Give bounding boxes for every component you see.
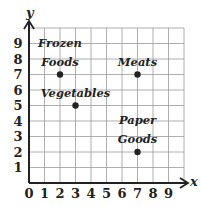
x-tick-label: 6: [117, 186, 126, 201]
x-tick-label: 1: [40, 186, 49, 201]
x-tick-label: 7: [133, 186, 142, 201]
x-tick-labels: 0123456789: [24, 186, 173, 201]
x-tick-label: 4: [86, 186, 95, 201]
point-marker-icon: [72, 102, 78, 108]
point-label: Vegetables: [41, 86, 111, 100]
point-marker-icon: [134, 71, 140, 77]
y-tick-label: 3: [13, 129, 22, 144]
y-tick-labels: 123456789: [13, 36, 22, 175]
y-tick-label: 9: [13, 36, 22, 51]
point-label: Meats: [117, 55, 158, 69]
y-tick-label: 7: [13, 67, 22, 82]
y-tick-label: 2: [13, 145, 22, 160]
x-tick-label: 2: [55, 186, 64, 201]
x-axis-label: x: [189, 174, 198, 189]
point-marker-icon: [134, 149, 140, 155]
point-label: Goods: [118, 132, 158, 146]
coordinate-plane: x y 0123456789 123456789 FrozenFoodsMeat…: [0, 0, 201, 207]
grid-lines: [29, 28, 184, 183]
x-tick-label: 0: [24, 186, 33, 201]
data-point: PaperGoods: [118, 113, 158, 155]
y-tick-label: 5: [13, 98, 22, 113]
data-points: FrozenFoodsMeatsVegetablesPaperGoods: [37, 36, 158, 156]
point-marker-icon: [57, 71, 63, 77]
y-tick-label: 1: [13, 160, 22, 175]
x-tick-label: 5: [102, 186, 111, 201]
x-tick-label: 8: [148, 186, 157, 201]
y-tick-label: 4: [13, 114, 22, 129]
x-tick-label: 9: [164, 186, 173, 201]
point-label: Foods: [40, 55, 79, 69]
y-tick-label: 6: [13, 83, 22, 98]
y-axis-label: y: [25, 5, 35, 20]
point-label: Paper: [118, 113, 157, 127]
point-label: Frozen: [37, 36, 82, 50]
x-tick-label: 3: [71, 186, 80, 201]
y-tick-label: 8: [13, 52, 22, 67]
